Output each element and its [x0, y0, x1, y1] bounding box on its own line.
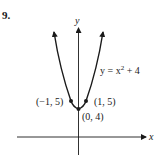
point-neg1-5: [69, 99, 73, 103]
parabola-graph: y x y = x2 + 4 (−1, 5) (1, 5) (0, 4): [0, 0, 163, 166]
x-axis-label: x: [148, 131, 154, 142]
point-label-vertex: (0, 4): [82, 111, 104, 123]
equation-rhs: + 4: [124, 65, 140, 76]
point-label-neg1-5: (−1, 5): [36, 96, 63, 108]
y-axis-label: y: [74, 15, 80, 26]
point-label-1-5: (1, 5): [94, 96, 116, 108]
point-vertex-0-4: [77, 107, 81, 111]
point-1-5: [84, 99, 88, 103]
equation-lhs: y = x: [100, 65, 121, 76]
equation-label: y = x2 + 4: [100, 64, 140, 76]
